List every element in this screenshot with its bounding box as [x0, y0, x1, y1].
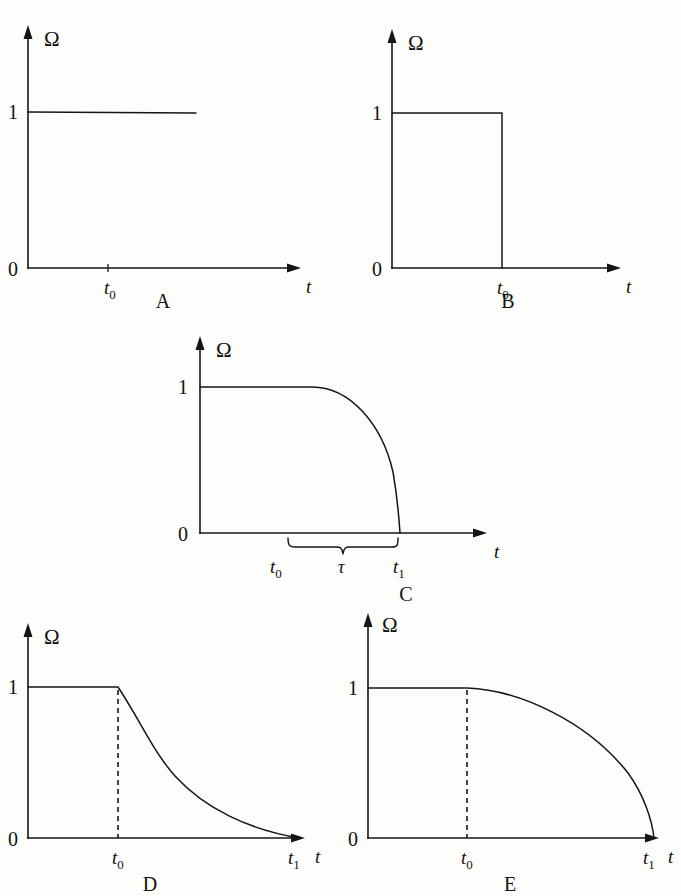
- tau-brace: [288, 538, 398, 554]
- x-tick-label-t1: t1: [393, 556, 405, 581]
- x-tick-label-t1: t1: [643, 847, 655, 872]
- y-axis-arrowhead: [364, 613, 373, 627]
- x-axis-label: t: [494, 541, 500, 562]
- tau-label: τ: [338, 557, 345, 577]
- curve-a-constant: [28, 112, 196, 113]
- y-axis-label: Ω: [382, 613, 398, 637]
- panel-e-axes: [364, 613, 660, 843]
- y-tick-label-zero: 0: [372, 258, 382, 280]
- x-tick-label-t1: t1: [288, 847, 300, 872]
- panel-d-axes: [24, 623, 306, 843]
- y-axis-arrowhead: [24, 623, 33, 637]
- y-axis-arrowhead: [196, 336, 205, 350]
- x-axis-arrowhead: [287, 264, 301, 273]
- curve-b-rectangular-pulse: [392, 113, 502, 268]
- y-tick-label-one: 1: [8, 101, 18, 123]
- y-tick-label-zero: 0: [8, 828, 18, 850]
- x-axis-label: t: [306, 276, 312, 297]
- panel-c-axes: [196, 336, 488, 538]
- y-axis-label: Ω: [44, 27, 60, 51]
- y-axis-label: Ω: [408, 31, 424, 55]
- x-axis-label: t: [668, 846, 674, 867]
- figure-container: Ω 1 0 t0 t A Ω 1 0 t0 t B: [0, 0, 681, 896]
- x-axis-label: t: [626, 276, 632, 297]
- panel-label-a: A: [156, 290, 171, 312]
- y-axis-arrowhead: [24, 25, 33, 39]
- curve-d-convex-decay: [28, 687, 300, 838]
- y-axis-label: Ω: [216, 338, 232, 362]
- panel-d: Ω 1 0 t0 t1 t D: [0, 610, 340, 896]
- y-axis-label: Ω: [44, 625, 60, 649]
- panel-b: Ω 1 0 t0 t B: [340, 0, 681, 310]
- panel-b-axes: [388, 29, 622, 273]
- x-axis-arrowhead: [645, 834, 659, 843]
- panel-c: Ω 1 0 t0 τ t1 t C: [150, 320, 540, 610]
- y-tick-label-zero: 0: [178, 523, 188, 545]
- panel-a: Ω 1 0 t0 t A: [0, 0, 340, 310]
- x-tick-label-t0: t0: [104, 277, 116, 302]
- y-tick-label-zero: 0: [8, 258, 18, 280]
- y-tick-label-zero: 0: [348, 828, 358, 850]
- x-axis-arrowhead: [607, 264, 621, 273]
- y-axis-arrowhead: [388, 29, 397, 43]
- y-tick-label-one: 1: [178, 376, 188, 398]
- x-tick-label-t0: t0: [270, 556, 282, 581]
- y-tick-label-one: 1: [348, 677, 358, 699]
- x-axis-label: t: [315, 846, 321, 867]
- curve-c-concave-decay: [200, 387, 400, 533]
- y-tick-label-one: 1: [8, 676, 18, 698]
- y-tick-label-one: 1: [372, 102, 382, 124]
- curve-e-concave-decay: [368, 688, 654, 838]
- x-tick-label-t0: t0: [112, 847, 124, 872]
- panel-e: Ω 1 0 t0 t1 t E: [340, 610, 681, 896]
- x-axis-arrowhead: [473, 529, 487, 538]
- panel-label-d: D: [143, 873, 157, 895]
- x-tick-label-t0: t0: [461, 847, 473, 872]
- panel-a-axes: [24, 25, 302, 273]
- panel-label-e: E: [504, 873, 516, 895]
- panel-label-b: B: [501, 290, 514, 312]
- panel-label-c: C: [399, 583, 412, 605]
